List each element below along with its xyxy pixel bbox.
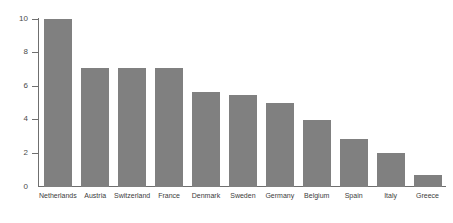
y-axis-tick-mark [32,153,38,154]
x-axis-category-labels: NetherlandsAustriaSwitzerlandFranceDenma… [39,191,446,200]
y-axis-tick-mark [32,19,38,20]
y-axis-tick-label: 8 [6,48,28,56]
bar-slot [261,14,298,187]
x-axis-category-label: Germany [261,191,298,200]
bar-slot [335,14,372,187]
bar [118,68,146,187]
bar [192,92,220,187]
x-axis-category-label: Austria [77,191,114,200]
bar-slot [150,14,187,187]
x-axis-category-label: Netherlands [39,191,77,200]
y-axis-tick-mark [32,86,38,87]
y-axis-tick-label: 4 [6,115,28,123]
bar-slot [298,14,335,187]
bar [414,175,442,187]
x-axis-category-label: Denmark [188,191,225,200]
y-axis-tick-mark [32,119,38,120]
bar-chart: 0246810 NetherlandsAustriaSwitzerlandFra… [0,0,453,223]
x-axis-category-label: Belgium [298,191,335,200]
bar [81,68,109,187]
x-axis-category-label: Spain [335,191,372,200]
y-axis-tick-label: 6 [6,82,28,90]
x-axis-category-label: Italy [372,191,409,200]
x-axis-category-label: France [151,191,188,200]
bar-slot [76,14,113,187]
y-axis-tick-mark [32,52,38,53]
x-axis-category-label: Sweden [224,191,261,200]
x-axis-category-label: Greece [409,191,446,200]
y-axis-tick-label: 2 [6,149,28,157]
bar [377,153,405,187]
bar [44,19,72,187]
y-axis-tick-label: 10 [6,15,28,23]
bar-series [39,14,446,187]
bar [303,120,331,187]
bar [229,95,257,187]
bar-slot [187,14,224,187]
bar-slot [39,14,76,187]
bar-slot [113,14,150,187]
bar-slot [224,14,261,187]
bar [155,68,183,187]
bar-slot [409,14,446,187]
bar [266,103,294,187]
x-axis-category-label: Switzerland [114,191,151,200]
bar [340,139,368,187]
bar-slot [372,14,409,187]
y-axis-tick-label: 0 [6,183,28,191]
